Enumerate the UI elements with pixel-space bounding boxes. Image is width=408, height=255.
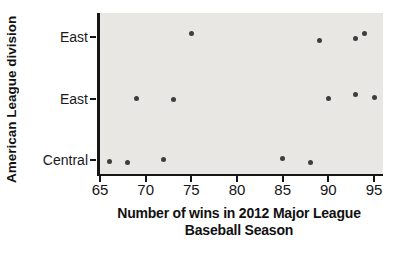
data-point bbox=[362, 31, 367, 36]
data-point bbox=[125, 160, 130, 165]
x-tick-label: 85 bbox=[266, 181, 300, 198]
x-axis-title-line2: Baseball Season bbox=[89, 222, 389, 239]
y-tick bbox=[90, 159, 96, 161]
data-point bbox=[189, 31, 194, 36]
data-point bbox=[171, 97, 176, 102]
data-point bbox=[353, 92, 358, 97]
data-point bbox=[372, 95, 377, 100]
data-point bbox=[107, 159, 112, 164]
x-tick-label: 75 bbox=[174, 181, 208, 198]
y-tick-label: Central bbox=[2, 152, 88, 168]
x-tick-label: 70 bbox=[129, 181, 163, 198]
data-point bbox=[326, 96, 331, 101]
data-point bbox=[280, 156, 285, 161]
x-tick-label: 95 bbox=[357, 181, 391, 198]
data-point bbox=[161, 157, 166, 162]
y-tick bbox=[90, 36, 96, 38]
y-tick-label: East bbox=[2, 91, 88, 107]
data-point bbox=[317, 38, 322, 43]
y-tick bbox=[90, 98, 96, 100]
data-point bbox=[308, 160, 313, 165]
dot-plot-figure: American League division EastEastCentral… bbox=[0, 0, 408, 255]
x-axis-title: Number of wins in 2012 Major League Base… bbox=[89, 205, 389, 239]
x-axis-title-line1: Number of wins in 2012 Major League bbox=[89, 205, 389, 222]
x-tick-label: 90 bbox=[311, 181, 345, 198]
x-tick-label: 80 bbox=[220, 181, 254, 198]
y-tick-label: East bbox=[2, 29, 88, 45]
data-point bbox=[353, 36, 358, 41]
x-tick-label: 65 bbox=[83, 181, 117, 198]
plot-area bbox=[97, 13, 383, 176]
data-point bbox=[134, 96, 139, 101]
